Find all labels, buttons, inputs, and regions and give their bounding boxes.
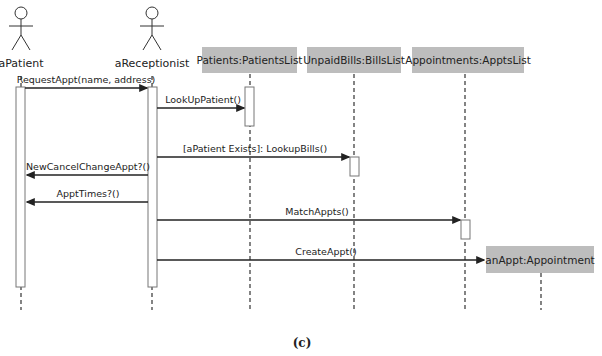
actor-icon-apatient	[9, 7, 33, 50]
object-appointments-list: Appointments:ApptsList	[412, 47, 524, 73]
object-unpaid-bills: UnpaidBills:BillsList	[307, 47, 401, 73]
message-create-appt: CreateAppt()	[295, 246, 356, 257]
actor-icon-areceptionist	[140, 7, 164, 50]
object-patients-list: Patients:PatientsList	[202, 47, 297, 73]
message-lookup-patient: LookUpPatient()	[165, 94, 241, 105]
actor-label-areceptionist: aReceptionist	[115, 57, 190, 70]
message-new-cancel-change: NewCancelChangeAppt?()	[26, 161, 150, 172]
actor-label-apatient: aPatient	[0, 57, 44, 70]
message-request-appt: RequestAppt(name, address)	[17, 74, 156, 85]
figure-caption: (c)	[293, 336, 312, 350]
object-appointment: anAppt:Appointment	[486, 246, 594, 273]
activation-bars	[16, 87, 470, 287]
message-match-appts: MatchAppts()	[285, 206, 349, 217]
message-appt-times: ApptTimes?()	[57, 188, 120, 199]
message-lookup-bills: [aPatient Exists]: LookupBills()	[183, 143, 327, 154]
